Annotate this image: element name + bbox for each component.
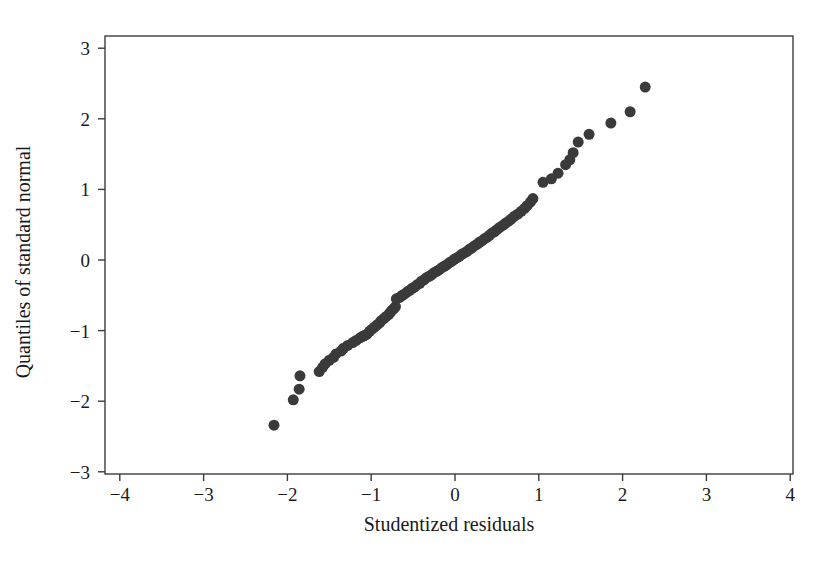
y-tick-label: 1 [81, 179, 91, 200]
y-tick-label: 2 [81, 109, 91, 130]
data-point [573, 137, 584, 148]
x-tick-label: 2 [618, 484, 628, 505]
x-tick-label: −2 [277, 484, 297, 505]
x-tick-label: −1 [361, 484, 381, 505]
data-point [294, 370, 305, 381]
data-point [553, 168, 564, 179]
y-tick-label: −3 [70, 462, 90, 483]
x-tick-label: 1 [534, 484, 544, 505]
x-tick-label: −3 [193, 484, 213, 505]
y-tick-label: −1 [70, 321, 90, 342]
y-axis-title: Quantiles of standard normal [12, 145, 34, 378]
data-point [625, 106, 636, 117]
x-tick-label: 4 [785, 484, 795, 505]
y-tick-label: −2 [70, 391, 90, 412]
x-tick-label: 3 [702, 484, 712, 505]
x-axis-title: Studentized residuals [364, 513, 535, 535]
data-point [527, 193, 538, 204]
data-point [268, 420, 279, 431]
x-tick-label: 0 [450, 484, 460, 505]
x-tick-label: −4 [110, 484, 131, 505]
data-point [640, 82, 651, 93]
data-point [584, 129, 595, 140]
data-point [288, 394, 299, 405]
plot-canvas: −4−3−2−101234 −3−2−10123 Studentized res… [0, 0, 822, 567]
data-point [294, 384, 305, 395]
qq-plot-figure: −4−3−2−101234 −3−2−10123 Studentized res… [0, 0, 822, 567]
y-tick-label: 0 [81, 250, 91, 271]
y-tick-label: 3 [81, 38, 91, 59]
data-point [568, 147, 579, 158]
data-point [605, 118, 616, 129]
